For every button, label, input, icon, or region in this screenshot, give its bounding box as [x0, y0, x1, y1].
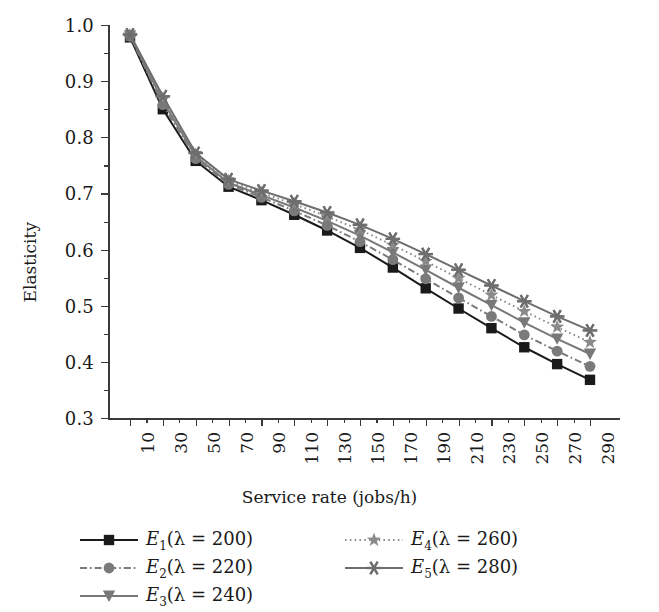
legend-label-E2: E2(λ = 220) — [146, 556, 253, 581]
series-line-E1 — [130, 37, 590, 379]
data-point-square — [421, 283, 431, 293]
y-tick-major — [101, 137, 108, 138]
x-tick-minor — [245, 419, 246, 423]
x-tick-label: 150 — [368, 432, 388, 464]
x-tick-minor — [179, 419, 180, 423]
y-tick-major — [101, 418, 108, 419]
data-point-square — [453, 303, 463, 313]
y-tick-major — [101, 250, 108, 251]
data-point-circle — [104, 563, 115, 574]
x-tick-label: 90 — [269, 432, 289, 454]
x-tick-minor — [344, 419, 345, 423]
data-point-triangle — [551, 333, 563, 344]
x-tick-major — [491, 419, 492, 426]
legend-swatch-E4 — [343, 529, 405, 551]
y-tick-minor — [104, 109, 108, 110]
y-tick-minor — [104, 334, 108, 335]
x-tick-label: 10 — [138, 432, 158, 454]
legend-label-E3: E3(λ = 240) — [146, 584, 253, 609]
y-tick-label: 0.3 — [44, 408, 94, 429]
series-E5 — [123, 28, 597, 336]
legend-item-E5[interactable]: E5(λ = 280) — [343, 555, 588, 581]
y-tick-label: 0.6 — [44, 239, 94, 260]
x-tick-label: 170 — [401, 432, 421, 464]
legend-item-E3[interactable]: E3(λ = 240) — [78, 583, 323, 609]
y-tick-major — [101, 193, 108, 194]
y-tick-minor — [104, 278, 108, 279]
x-tick-minor — [146, 419, 147, 423]
data-point-square — [486, 323, 496, 333]
legend-swatch-E1 — [78, 529, 140, 551]
y-tick-major — [101, 362, 108, 363]
y-tick-label: 0.9 — [44, 71, 94, 92]
x-tick-minor — [475, 419, 476, 423]
y-tick-label: 0.7 — [44, 183, 94, 204]
x-tick-major — [196, 419, 197, 426]
data-point-square — [519, 342, 529, 352]
legend-label-E1: E1(λ = 200) — [146, 528, 253, 553]
chart-legend: E1(λ = 200)E4(λ = 260)E2(λ = 220)E5(λ = … — [78, 527, 618, 609]
x-tick-label: 290 — [598, 432, 618, 464]
x-axis-line — [108, 418, 620, 420]
y-tick-major — [101, 25, 108, 26]
x-tick-major — [524, 419, 525, 426]
x-tick-minor — [278, 419, 279, 423]
data-point-circle — [585, 361, 596, 372]
x-tick-label: 130 — [335, 432, 355, 464]
x-tick-minor — [442, 419, 443, 423]
data-point-triangle — [518, 317, 530, 328]
y-tick-minor — [104, 390, 108, 391]
legend-item-E1[interactable]: E1(λ = 200) — [78, 527, 323, 553]
x-tick-major — [229, 419, 230, 426]
data-point-triangle — [420, 264, 432, 275]
x-tick-minor — [376, 419, 377, 423]
legend-swatch-E5 — [343, 557, 405, 579]
y-axis-title: Elasticity — [20, 222, 40, 302]
x-tick-label: 30 — [171, 432, 191, 454]
data-point-triangle — [452, 282, 464, 293]
series-curves — [108, 25, 620, 418]
legend-label-E4: E4(λ = 260) — [411, 528, 518, 553]
y-tick-minor — [104, 165, 108, 166]
data-point-square — [552, 359, 562, 369]
data-point-circle — [552, 346, 563, 357]
x-tick-minor — [508, 419, 509, 423]
x-tick-label: 110 — [302, 432, 322, 464]
y-tick-label: 0.4 — [44, 351, 94, 372]
legend-spacer — [343, 583, 588, 609]
y-tick-label: 0.5 — [44, 295, 94, 316]
legend-label-E5: E5(λ = 280) — [411, 556, 518, 581]
x-tick-major — [163, 419, 164, 426]
data-point-star — [550, 320, 564, 333]
legend-swatch-E2 — [78, 557, 140, 579]
y-tick-minor — [104, 222, 108, 223]
x-tick-major — [393, 419, 394, 426]
data-point-asterisk — [367, 562, 381, 574]
x-tick-label: 270 — [565, 432, 585, 464]
x-tick-major — [294, 419, 295, 426]
x-tick-major — [360, 419, 361, 426]
x-tick-major — [590, 419, 591, 426]
x-tick-minor — [212, 419, 213, 423]
series-line-E2 — [130, 36, 590, 366]
plot-area — [108, 25, 620, 418]
data-point-square — [104, 535, 114, 545]
x-tick-major — [426, 419, 427, 426]
y-tick-major — [101, 306, 108, 307]
legend-swatch-E3 — [78, 585, 140, 607]
y-tick-major — [101, 81, 108, 82]
data-point-star — [367, 533, 381, 546]
data-point-star — [583, 335, 597, 348]
legend-item-E4[interactable]: E4(λ = 260) — [343, 527, 588, 553]
x-tick-major — [261, 419, 262, 426]
y-tick-label: 1.0 — [44, 15, 94, 36]
data-point-square — [585, 375, 595, 385]
data-point-circle — [519, 330, 530, 341]
data-point-asterisk — [583, 324, 597, 336]
legend-item-E2[interactable]: E2(λ = 220) — [78, 555, 323, 581]
data-point-circle — [453, 292, 464, 303]
y-tick-label: 0.8 — [44, 127, 94, 148]
series-line-E5 — [130, 35, 590, 331]
x-tick-minor — [409, 419, 410, 423]
x-tick-label: 250 — [532, 432, 552, 464]
